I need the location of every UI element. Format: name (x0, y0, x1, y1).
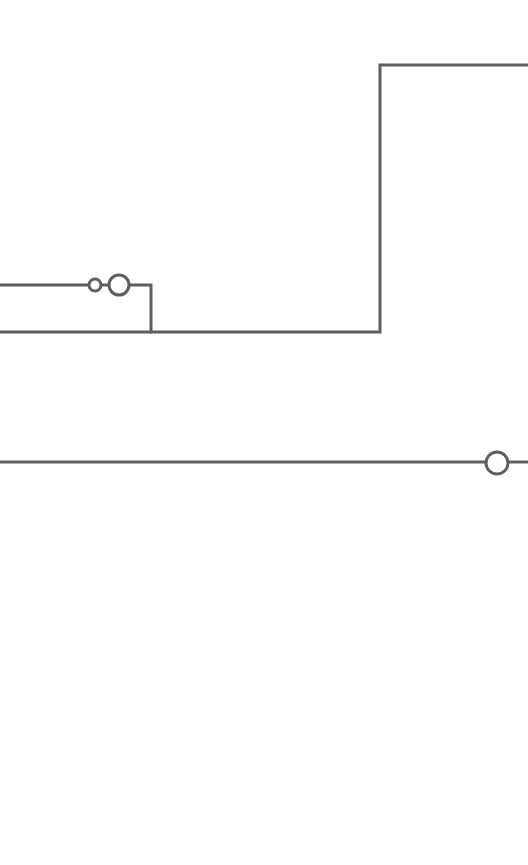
wires-group (0, 65, 528, 462)
small-contact-circle-icon (89, 279, 101, 291)
large-contact-upper-circle-icon (109, 275, 129, 295)
wire-main-rail (0, 65, 528, 332)
large-contact-lower-circle-icon (486, 452, 508, 474)
wire-upper-branch-tail (130, 285, 151, 332)
line-diagram (0, 0, 528, 865)
